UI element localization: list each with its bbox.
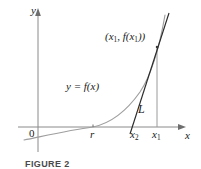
point-label-close: )): [138, 30, 145, 42]
point-label-mid: , f(: [117, 30, 129, 42]
tick-label-x1: x1: [152, 129, 161, 142]
newton-method-diagram: [0, 0, 201, 169]
root-label-r: r: [90, 129, 94, 140]
origin-label: 0: [29, 128, 35, 139]
figure-container: y x 0 r x2 x1 (x1, f(x1)) y = f(x) L FIG…: [0, 0, 201, 169]
y-axis-label: y: [31, 5, 36, 16]
tick-label-x1-subscript: 1: [157, 134, 161, 142]
curve-equation-label: y = f(x): [66, 81, 99, 92]
tick-label-x2-subscript: 2: [135, 134, 139, 142]
figure-caption: FIGURE 2: [25, 159, 70, 169]
point-label: (x1, f(x1)): [105, 31, 145, 44]
x-axis-label: x: [185, 130, 190, 141]
tick-label-x2: x2: [130, 129, 139, 142]
tangent-point-marker: [156, 46, 159, 49]
tangent-line-label: L: [138, 103, 145, 115]
